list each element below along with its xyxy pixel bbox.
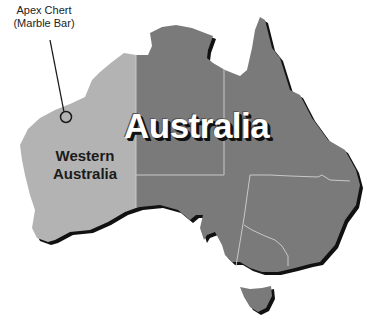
region-label-line-2: Australia <box>40 165 130 183</box>
map-title: Australia <box>124 106 269 146</box>
callout-label: Apex Chert (Marble Bar) <box>4 4 84 30</box>
region-label-line-1: Western <box>40 147 130 165</box>
callout-line-1: Apex Chert <box>4 4 84 17</box>
region-label-western-australia: Western Australia <box>40 147 130 183</box>
callout-leader-line <box>50 40 64 112</box>
callout-line-2: (Marble Bar) <box>4 17 84 30</box>
australia-map: Apex Chert (Marble Bar) Western Australi… <box>0 0 367 325</box>
